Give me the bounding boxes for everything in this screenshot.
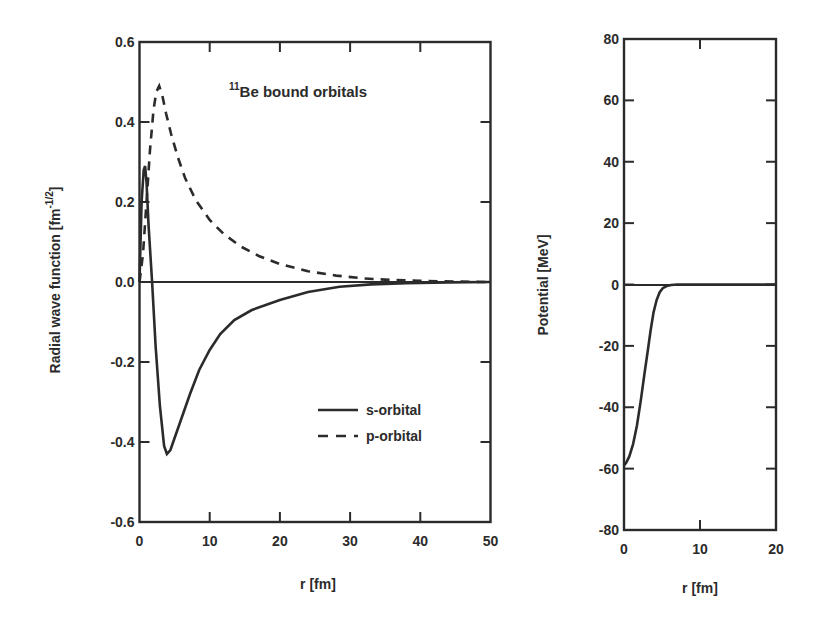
wavefunction-ylabel: Radial wave function [fm-1/2]: [44, 187, 63, 374]
y-tick-label: 60: [603, 92, 619, 108]
y-tick-label: -0.4: [110, 434, 134, 450]
s-orbital-curve: [140, 166, 491, 454]
x-tick-label: 50: [483, 533, 499, 549]
x-tick-label: 20: [272, 533, 288, 549]
annotation-superscript: 11: [229, 81, 240, 92]
wavefunction-panel: 01020304050-0.6-0.4-0.20.00.20.40.6 11Be…: [44, 34, 498, 592]
y-tick-label: -0.6: [110, 514, 134, 530]
x-tick-label: 20: [768, 541, 784, 557]
y-tick-label: 0.2: [115, 194, 135, 210]
legend-p-orbital-label: p-orbital: [366, 428, 422, 444]
y-tick-label: 0.0: [115, 274, 135, 290]
x-tick-label: 30: [342, 533, 358, 549]
potential-tick-labels: 01020-80-60-40-20020406080: [599, 31, 784, 557]
y-tick-label: -20: [599, 338, 619, 354]
potential-xlabel: r [fm]: [682, 580, 718, 596]
potential-panel: 01020-80-60-40-20020406080 r [fm] Potent…: [535, 31, 784, 596]
ylabel-main: Radial wave function [fm: [47, 208, 63, 373]
potential-curve: [624, 285, 776, 466]
wavefunction-legend: s-orbital p-orbital: [318, 402, 422, 444]
x-tick-label: 0: [620, 541, 628, 557]
wavefunction-tick-labels: 01020304050-0.6-0.4-0.20.00.20.40.6: [110, 34, 498, 549]
annotation-text: Be bound orbitals: [240, 83, 368, 100]
y-tick-label: -40: [599, 399, 619, 415]
y-tick-label: 40: [603, 154, 619, 170]
potential-ylabel: Potential [MeV]: [535, 234, 551, 335]
y-tick-label: 0.4: [115, 114, 135, 130]
y-tick-label: 0.6: [115, 34, 135, 50]
ylabel-close: ]: [47, 187, 63, 192]
y-tick-label: -80: [599, 522, 619, 538]
y-tick-label: -0.2: [110, 354, 134, 370]
x-tick-label: 10: [202, 533, 218, 549]
x-tick-label: 10: [692, 541, 708, 557]
x-tick-label: 0: [136, 533, 144, 549]
wavefunction-xlabel: r [fm]: [300, 576, 336, 592]
legend-s-orbital-label: s-orbital: [366, 402, 421, 418]
y-tick-label: 20: [603, 215, 619, 231]
x-tick-label: 40: [413, 533, 429, 549]
y-tick-label: 0: [611, 277, 619, 293]
y-tick-label: -60: [599, 461, 619, 477]
p-orbital-curve: [140, 86, 491, 282]
ylabel-exponent: -1/2: [44, 191, 55, 209]
y-tick-label: 80: [603, 31, 619, 47]
wavefunction-annotation: 11Be bound orbitals: [229, 81, 367, 100]
figure: 01020304050-0.6-0.4-0.20.00.20.40.6 11Be…: [0, 0, 823, 628]
